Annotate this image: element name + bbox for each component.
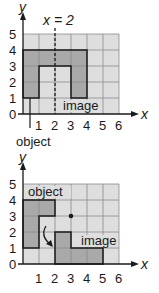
x-tick-labels: 1 2 3 4 5 6 (35, 271, 122, 286)
svg-text:6: 6 (115, 118, 122, 133)
svg-text:5: 5 (99, 271, 106, 286)
svg-text:4: 4 (83, 271, 90, 286)
y-tick-labels: 0 1 2 3 4 5 (9, 177, 16, 272)
svg-text:5: 5 (9, 27, 16, 42)
svg-text:0: 0 (9, 107, 16, 122)
svg-text:1: 1 (9, 241, 16, 256)
y-axis-label: y (18, 149, 27, 165)
y-axis-label: y (18, 0, 27, 15)
svg-text:2: 2 (51, 271, 58, 286)
image-label: image (81, 233, 116, 248)
svg-text:1: 1 (35, 118, 42, 133)
x-axis-label: x (140, 106, 149, 122)
x-tick-labels: 1 2 3 4 5 6 (35, 118, 122, 133)
svg-text:4: 4 (9, 193, 16, 208)
svg-text:0: 0 (9, 257, 16, 272)
transformations-figure: x = 2 x y 1 2 3 4 5 6 0 1 2 3 4 5 image … (0, 0, 159, 293)
reflection-diagram: x = 2 x y 1 2 3 4 5 6 0 1 2 3 4 5 image … (9, 0, 149, 149)
svg-text:4: 4 (83, 118, 90, 133)
x-axis-arrow-icon (131, 261, 139, 267)
svg-text:3: 3 (67, 118, 74, 133)
mirror-line-label: x = 2 (42, 12, 74, 28)
svg-text:2: 2 (51, 118, 58, 133)
svg-text:2: 2 (9, 75, 16, 90)
rotation-center-point (69, 214, 74, 219)
image-label: image (63, 98, 98, 113)
rotation-diagram: object image x y 1 2 3 4 5 6 0 1 2 3 4 5 (9, 149, 149, 286)
object-label: object (16, 134, 51, 149)
y-tick-labels: 0 1 2 3 4 5 (9, 27, 16, 122)
svg-text:6: 6 (115, 271, 122, 286)
svg-text:5: 5 (9, 177, 16, 192)
object-label: object (28, 184, 63, 199)
x-axis-label: x (140, 256, 149, 272)
x-axis-arrow-icon (131, 111, 139, 117)
svg-text:3: 3 (9, 59, 16, 74)
svg-text:1: 1 (35, 271, 42, 286)
svg-text:3: 3 (9, 209, 16, 224)
svg-text:5: 5 (99, 118, 106, 133)
svg-text:2: 2 (9, 225, 16, 240)
svg-text:4: 4 (9, 43, 16, 58)
svg-text:1: 1 (9, 91, 16, 106)
svg-text:3: 3 (67, 271, 74, 286)
